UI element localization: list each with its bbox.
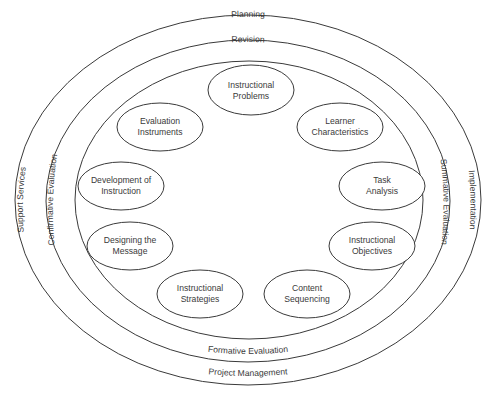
svg-text:Analysis: Analysis — [366, 186, 398, 196]
node-task-analysis: Task Analysis — [339, 162, 425, 210]
svg-text:Instructional: Instructional — [349, 235, 395, 245]
node-content-sequencing: Content Sequencing — [264, 270, 350, 318]
node-instructional-strategies: Instructional Strategies — [157, 270, 243, 318]
node-designing-the-message: Designing the Message — [87, 222, 173, 270]
svg-text:Evaluation: Evaluation — [140, 116, 180, 126]
label-summative-evaluation: Summative Evaluation — [439, 158, 452, 245]
svg-text:Instructional: Instructional — [228, 80, 274, 90]
svg-text:Development of: Development of — [91, 175, 152, 185]
svg-text:Message: Message — [113, 246, 148, 256]
svg-text:Content: Content — [292, 283, 323, 293]
svg-text:Problems: Problems — [233, 91, 269, 101]
svg-text:Learner: Learner — [325, 116, 355, 126]
label-project-management: Project Management — [208, 366, 288, 378]
node-instructional-objectives: Instructional Objectives — [329, 222, 415, 270]
svg-text:Task: Task — [373, 175, 391, 185]
svg-text:Instruments: Instruments — [138, 127, 183, 137]
node-instructional-problems: Instructional Problems — [208, 65, 294, 115]
label-confirmative-evaluation: Confirmative Evaluation — [45, 153, 59, 246]
diagram-canvas: Planning Revision Formative Evaluation P… — [0, 0, 496, 397]
node-evaluation-instruments: Evaluation Instruments — [117, 103, 203, 151]
svg-text:Designing the: Designing the — [104, 235, 157, 245]
label-revision: Revision — [231, 34, 265, 44]
label-formative-evaluation: Formative Evaluation — [207, 344, 288, 356]
label-implementation: Implementation — [467, 170, 479, 230]
node-development-of-instruction: Development of Instruction — [78, 162, 164, 210]
svg-text:Characteristics: Characteristics — [312, 127, 369, 137]
instructional-design-diagram: Planning Revision Formative Evaluation P… — [0, 0, 496, 397]
svg-text:Instruction: Instruction — [101, 186, 141, 196]
label-planning: Planning — [231, 9, 265, 19]
svg-text:Strategies: Strategies — [181, 294, 220, 304]
svg-text:Sequencing: Sequencing — [284, 294, 330, 304]
svg-text:Instructional: Instructional — [177, 283, 223, 293]
label-support-services: Support Services — [15, 166, 28, 233]
node-learner-characteristics: Learner Characteristics — [297, 103, 383, 151]
svg-text:Objectives: Objectives — [352, 246, 392, 256]
